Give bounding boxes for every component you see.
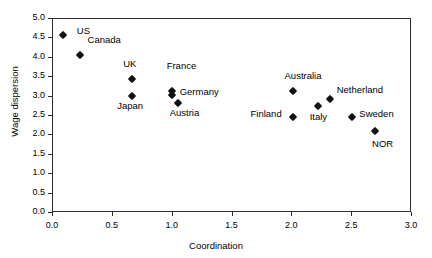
x-tick-mark bbox=[411, 212, 412, 216]
data-point-label: Japan bbox=[117, 101, 143, 111]
y-tick-label: 2.0 bbox=[18, 129, 45, 138]
plot-area bbox=[52, 18, 411, 212]
data-point-label: Canada bbox=[88, 35, 121, 45]
y-tick-mark bbox=[48, 115, 52, 116]
x-tick-label: 2.5 bbox=[335, 221, 367, 230]
x-tick-label: 1.5 bbox=[216, 221, 248, 230]
data-point-label: Australia bbox=[285, 71, 322, 81]
y-tick-label: 2.5 bbox=[18, 110, 45, 119]
data-point-label: UK bbox=[123, 59, 136, 69]
data-point-label: NOR bbox=[372, 139, 393, 149]
y-tick-label: 1.5 bbox=[18, 149, 45, 158]
y-tick-label: 0.5 bbox=[18, 188, 45, 197]
y-tick-mark bbox=[48, 134, 52, 135]
x-tick-mark bbox=[351, 212, 352, 216]
y-tick-mark bbox=[48, 18, 52, 19]
data-point-label: France bbox=[167, 61, 197, 71]
x-tick-label: 0.0 bbox=[36, 221, 68, 230]
y-tick-mark bbox=[48, 57, 52, 58]
y-tick-mark bbox=[48, 37, 52, 38]
y-tick-mark bbox=[48, 76, 52, 77]
x-tick-mark bbox=[172, 212, 173, 216]
y-tick-label: 1.0 bbox=[18, 168, 45, 177]
y-tick-label: 4.0 bbox=[18, 52, 45, 61]
x-tick-label: 3.0 bbox=[395, 221, 427, 230]
x-tick-label: 1.0 bbox=[156, 221, 188, 230]
y-tick-label: 4.5 bbox=[18, 32, 45, 41]
data-point-label: Finland bbox=[251, 109, 282, 119]
y-tick-label: 0.0 bbox=[18, 207, 45, 216]
x-tick-mark bbox=[291, 212, 292, 216]
x-tick-mark bbox=[112, 212, 113, 216]
y-tick-label: 3.5 bbox=[18, 71, 45, 80]
data-point-label: Germany bbox=[180, 87, 219, 97]
x-tick-label: 0.5 bbox=[96, 221, 128, 230]
y-tick-label: 5.0 bbox=[18, 13, 45, 22]
x-tick-mark bbox=[232, 212, 233, 216]
y-tick-mark bbox=[48, 193, 52, 194]
y-tick-mark bbox=[48, 96, 52, 97]
y-axis-title: Wage dispersion bbox=[9, 47, 20, 157]
data-point-label: Sweden bbox=[359, 109, 393, 119]
y-tick-mark bbox=[48, 173, 52, 174]
x-tick-mark bbox=[52, 212, 53, 216]
data-point-label: Netherland bbox=[337, 85, 383, 95]
x-axis-title: Coordination bbox=[0, 240, 432, 251]
data-point-label: Italy bbox=[310, 112, 327, 122]
data-point-label: Austria bbox=[170, 108, 200, 118]
y-tick-mark bbox=[48, 154, 52, 155]
y-tick-label: 3.0 bbox=[18, 91, 45, 100]
x-tick-label: 2.0 bbox=[275, 221, 307, 230]
scatter-chart-figure: 0.00.51.01.52.02.53.03.54.04.55.0 0.00.5… bbox=[0, 0, 432, 258]
